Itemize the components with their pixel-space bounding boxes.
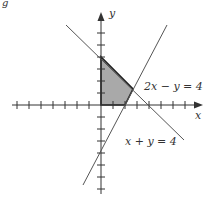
label-2x-minus-y-eq-4: 2x − y = 4 (143, 80, 203, 93)
diagram: g x (0, 0, 213, 200)
y-axis-arrow-icon (98, 12, 105, 21)
y-axis-label: y (108, 7, 116, 20)
x-axis-label: x (195, 109, 202, 122)
label-x-plus-y-eq-4: x + y = 4 (125, 135, 177, 148)
x-axis-arrow-icon (194, 102, 203, 109)
corner-fragment: g (2, 0, 8, 8)
